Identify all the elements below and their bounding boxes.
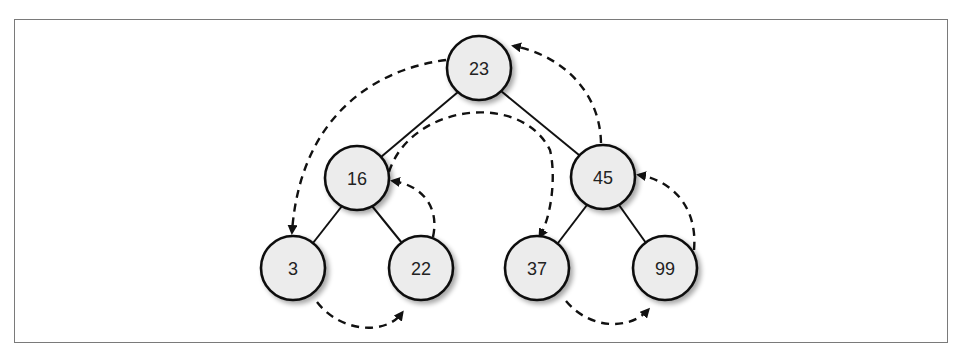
node-37: 37 <box>505 236 569 300</box>
node-23: 23 <box>447 36 511 100</box>
edge-45-37 <box>558 205 587 243</box>
node-label: 37 <box>527 259 547 279</box>
node-label: 45 <box>593 168 613 188</box>
node-45: 45 <box>571 145 635 209</box>
arrow-22-to-16 <box>393 181 434 237</box>
arrow-37-to-99 <box>566 301 648 324</box>
edge-45-99 <box>619 205 646 243</box>
edge-23-16 <box>381 92 458 157</box>
tree-diagram: 23 16 45 3 22 37 99 <box>0 0 964 357</box>
edge-16-22 <box>372 206 402 243</box>
edge-16-3 <box>313 206 342 243</box>
node-3: 3 <box>261 236 325 300</box>
edge-23-45 <box>501 91 579 155</box>
arrow-16-to-37 <box>389 112 553 236</box>
node-16: 16 <box>325 146 389 210</box>
arrow-3-to-22 <box>317 302 402 328</box>
arrow-45-to-23 <box>514 46 601 143</box>
node-label: 3 <box>288 259 298 279</box>
node-label: 16 <box>347 169 367 189</box>
node-label: 23 <box>469 59 489 79</box>
node-label: 22 <box>411 259 431 279</box>
tree-nodes: 23 16 45 3 22 37 99 <box>261 36 697 300</box>
node-label: 99 <box>655 259 675 279</box>
node-99: 99 <box>633 236 697 300</box>
node-22: 22 <box>389 236 453 300</box>
